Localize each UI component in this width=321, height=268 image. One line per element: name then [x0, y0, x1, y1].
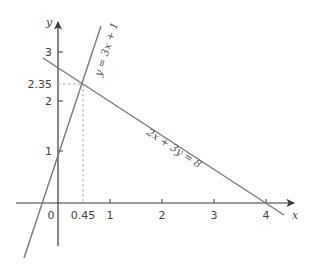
equation-label-line1: y = 3x + 1	[91, 20, 120, 78]
y-tick-label-3: 3	[45, 46, 52, 59]
x-tick-label-0.45: 0.45	[71, 209, 96, 222]
x-tick-label-4: 4	[263, 209, 270, 222]
x-tick-label-1: 1	[107, 209, 114, 222]
y-tick-label-1: 1	[45, 145, 52, 158]
x-tick-label-3: 3	[211, 209, 218, 222]
x-tick-label-0: 0	[48, 209, 55, 222]
x-axis-label: x	[292, 209, 299, 222]
x-tick-label-2: 2	[159, 209, 166, 222]
line-y-3x-plus-1	[24, 26, 101, 258]
equation-label-line2: 2x + 3y = 8	[144, 125, 204, 170]
graph: 0 0.45 1 2 3 4 1 2 2.35 3 x y y = 3x + 1…	[0, 0, 321, 268]
y-axis-label: y	[45, 16, 53, 29]
y-tick-label-2: 2	[45, 95, 52, 108]
y-ticks	[58, 52, 63, 151]
y-tick-label-2.35: 2.35	[28, 78, 53, 91]
